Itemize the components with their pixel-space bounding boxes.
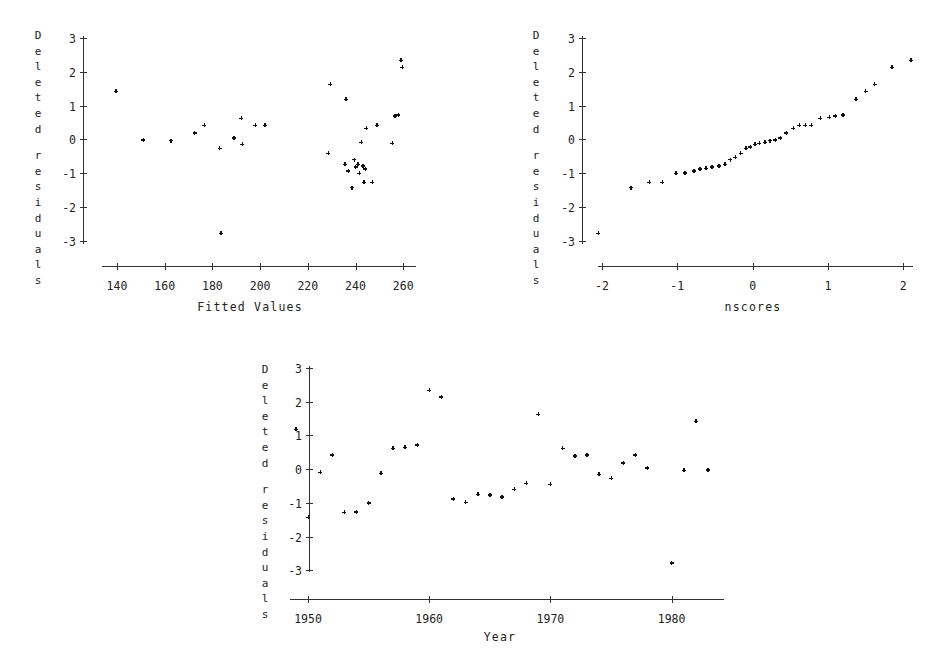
data-point bbox=[536, 412, 540, 416]
data-point bbox=[784, 131, 788, 135]
data-point bbox=[809, 123, 813, 127]
data-point bbox=[803, 123, 807, 127]
data-point bbox=[710, 165, 714, 169]
data-point bbox=[361, 164, 365, 168]
y-axis-tick bbox=[579, 38, 586, 39]
data-point bbox=[706, 468, 710, 472]
x-axis-tick bbox=[828, 263, 829, 270]
y-axis-tick bbox=[579, 139, 586, 140]
data-point bbox=[253, 123, 257, 127]
x-axis-tick-label: 160 bbox=[154, 279, 175, 293]
y-axis-tick bbox=[306, 368, 313, 369]
data-point bbox=[391, 446, 395, 450]
x-axis-tick bbox=[550, 596, 551, 603]
data-point bbox=[141, 138, 145, 142]
y-axis-tick bbox=[80, 72, 87, 73]
x-axis-tick-label: 1 bbox=[824, 279, 831, 293]
data-point bbox=[202, 123, 206, 127]
x-axis-title-1: nscores bbox=[725, 300, 782, 314]
data-point bbox=[356, 162, 360, 166]
y-axis-tick-label: 3 bbox=[280, 362, 302, 376]
data-point bbox=[326, 151, 330, 155]
data-point bbox=[375, 123, 379, 127]
data-point bbox=[573, 454, 577, 458]
y-axis-tick bbox=[579, 207, 586, 208]
data-point bbox=[704, 166, 708, 170]
data-point bbox=[797, 123, 801, 127]
plot-area-0: 3210-1-2-3140160180200220240260 bbox=[0, 0, 470, 340]
y-axis-tick bbox=[579, 72, 586, 73]
y-axis-tick-label: 2 bbox=[280, 396, 302, 410]
x-axis-tick bbox=[672, 596, 673, 603]
data-point bbox=[670, 561, 674, 565]
data-point bbox=[698, 167, 702, 171]
data-point bbox=[561, 446, 565, 450]
data-point bbox=[621, 461, 625, 465]
data-point bbox=[748, 145, 752, 149]
data-point bbox=[757, 141, 761, 145]
chart-panel-nscores: Deleted residuals 3210-1-2-3-2-1012 nsco… bbox=[470, 0, 938, 340]
y-axis-tick-label: -3 bbox=[54, 235, 76, 249]
data-point bbox=[753, 142, 757, 146]
data-point bbox=[629, 186, 633, 190]
x-axis-tick bbox=[429, 596, 430, 603]
data-point bbox=[512, 487, 516, 491]
data-point bbox=[354, 510, 358, 514]
x-axis-tick bbox=[403, 263, 404, 270]
y-axis-tick-label: 2 bbox=[54, 66, 76, 80]
data-point bbox=[330, 453, 334, 457]
data-point bbox=[464, 500, 468, 504]
data-point bbox=[232, 136, 236, 140]
y-axis-tick bbox=[306, 570, 313, 571]
y-axis-tick-label: -2 bbox=[553, 201, 575, 215]
y-axis-tick-label: -3 bbox=[553, 235, 575, 249]
x-axis-tick-label: -2 bbox=[595, 279, 609, 293]
data-point bbox=[873, 82, 877, 86]
data-point bbox=[169, 139, 173, 143]
plot-area-2: 3210-1-2-31950196019701980 bbox=[230, 340, 790, 669]
y-axis-tick-label: 1 bbox=[54, 100, 76, 114]
x-axis-tick bbox=[677, 263, 678, 270]
plot-area-1: 3210-1-2-3-2-1012 bbox=[470, 0, 938, 340]
y-axis-tick bbox=[80, 139, 87, 140]
data-point bbox=[854, 97, 858, 101]
data-point bbox=[399, 58, 403, 62]
data-point bbox=[723, 162, 727, 166]
x-axis-tick-label: 200 bbox=[250, 279, 271, 293]
data-point bbox=[370, 180, 374, 184]
y-axis-tick bbox=[579, 173, 586, 174]
x-axis-tick bbox=[260, 263, 261, 270]
data-point bbox=[841, 113, 845, 117]
data-point bbox=[342, 510, 346, 514]
data-point bbox=[350, 186, 354, 190]
x-axis-tick-label: 0 bbox=[749, 279, 756, 293]
y-axis-tick bbox=[80, 106, 87, 107]
data-point bbox=[344, 97, 348, 101]
data-point bbox=[524, 481, 528, 485]
y-axis-tick bbox=[80, 173, 87, 174]
data-point bbox=[633, 453, 637, 457]
data-point bbox=[239, 116, 243, 120]
data-point bbox=[403, 445, 407, 449]
x-axis-title-2: Year bbox=[484, 630, 517, 644]
data-point bbox=[114, 89, 118, 93]
data-point bbox=[744, 146, 748, 150]
data-point bbox=[674, 171, 678, 175]
data-point bbox=[609, 476, 613, 480]
data-point bbox=[439, 395, 443, 399]
data-point bbox=[763, 140, 767, 144]
data-point bbox=[585, 453, 589, 457]
data-point bbox=[396, 113, 400, 117]
y-axis-tick-label: 0 bbox=[553, 133, 575, 147]
data-point bbox=[768, 139, 772, 143]
x-axis-tick bbox=[165, 263, 166, 270]
x-axis-tick-label: 1980 bbox=[658, 612, 686, 626]
data-point bbox=[500, 495, 504, 499]
y-axis-tick-label: -2 bbox=[280, 531, 302, 545]
data-point bbox=[694, 419, 698, 423]
x-axis-tick bbox=[753, 263, 754, 270]
data-point bbox=[400, 65, 404, 69]
y-axis-tick bbox=[80, 38, 87, 39]
data-point bbox=[318, 470, 322, 474]
data-point bbox=[343, 162, 347, 166]
